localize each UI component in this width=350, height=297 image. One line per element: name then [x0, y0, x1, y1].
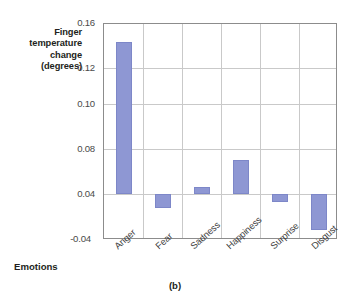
bar-happiness: [233, 160, 249, 194]
bar-fear: [155, 194, 171, 208]
gridline-vertical-3: [221, 24, 222, 238]
bar-surprise: [272, 194, 288, 202]
y-tick-label-5: -0.04: [49, 233, 91, 244]
bar-disgust: [311, 194, 327, 230]
y-axis-title-line-2: temperature: [4, 38, 82, 49]
y-axis-title-line-3: change: [4, 50, 82, 61]
gridline-vertical-4: [260, 24, 261, 238]
y-tick-label-3: 0.08: [53, 143, 95, 154]
y-tick-label-0: 0.16: [53, 17, 95, 28]
plot-area: [103, 23, 337, 239]
y-tick-label-1: 0.12: [53, 62, 95, 73]
y-tick-label-4: 0.04: [53, 188, 95, 199]
figure-panel-b: Finger temperature change (degrees) 0.16…: [0, 0, 350, 297]
gridline-vertical-2: [182, 24, 183, 238]
y-axis-title-line-1: Finger: [4, 27, 82, 38]
x-axis-title: Emotions: [14, 261, 58, 272]
y-tick-label-2: 0.10: [53, 98, 95, 109]
gridline-horizontal-0-04: [104, 194, 336, 195]
gridline-horizontal-0-12: [104, 68, 336, 69]
bar-sadness: [194, 187, 210, 194]
gridline-vertical-1: [143, 24, 144, 238]
bar-anger: [116, 42, 132, 194]
panel-caption: (b): [0, 280, 350, 291]
gridline-horizontal-0-10: [104, 104, 336, 105]
gridline-horizontal-0-08: [104, 149, 336, 150]
gridline-vertical-5: [299, 24, 300, 238]
